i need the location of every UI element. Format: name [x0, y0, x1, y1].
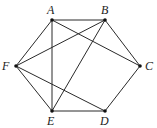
vertex-labels: ABCDEF [1, 3, 154, 128]
edge-a-c [52, 20, 140, 66]
vertex-c [138, 64, 142, 68]
vertex-label-d: D [99, 114, 109, 128]
vertex-e [50, 109, 54, 113]
vertex-label-a: A [46, 3, 55, 17]
vertex-label-b: B [101, 3, 109, 17]
edge-f-a [16, 20, 52, 66]
vertex-f [14, 64, 18, 68]
edge-f-d [16, 66, 105, 111]
vertex-a [50, 18, 54, 22]
graph-diagram: ABCDEF [0, 0, 157, 128]
vertex-label-c: C [145, 59, 154, 73]
edge-c-d [105, 66, 140, 111]
vertex-d [103, 109, 107, 113]
edges [16, 20, 140, 111]
vertex-label-f: F [1, 59, 10, 73]
vertex-b [103, 18, 107, 22]
edge-b-c [105, 20, 140, 66]
vertex-label-e: E [46, 114, 55, 128]
edge-e-f [16, 66, 52, 111]
